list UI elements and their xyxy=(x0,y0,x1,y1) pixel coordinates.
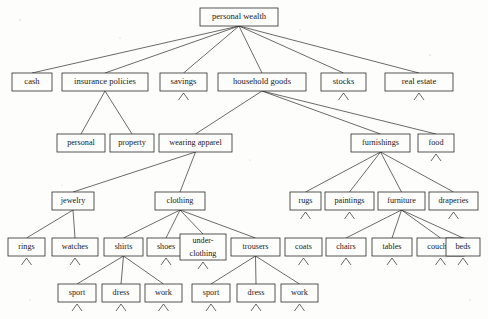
tree-node-household-goods[interactable]: household goods xyxy=(218,73,306,91)
leaf-expand-stub xyxy=(72,304,82,311)
tree-node-beds[interactable]: beds xyxy=(446,238,480,256)
node-label: tables xyxy=(382,242,401,251)
tree-diagram-canvas: personal wealthcashinsurance policiessav… xyxy=(0,0,488,319)
paper-noise-layer xyxy=(19,19,470,300)
leaf-expand-stub xyxy=(299,258,309,265)
tree-node-trousers[interactable]: trousers xyxy=(231,238,280,256)
tree-edge xyxy=(239,26,262,73)
leaf-expand-stub xyxy=(436,258,446,265)
node-label: work xyxy=(155,288,173,297)
leaf-expand-stub xyxy=(431,154,441,161)
tree-node-chairs[interactable]: chairs xyxy=(326,238,366,256)
tree-edge xyxy=(166,210,180,238)
tree-edge xyxy=(180,210,203,234)
tree-edge xyxy=(73,210,75,238)
tree-node-food[interactable]: food xyxy=(418,134,454,152)
tree-node-shirts-dress[interactable]: dress xyxy=(102,284,140,302)
tree-node-under-clothing[interactable]: under-clothing xyxy=(180,234,226,260)
tree-edge xyxy=(77,256,124,284)
node-label: dress xyxy=(248,288,265,297)
leaf-expand-stub xyxy=(159,304,169,311)
node-label: watches xyxy=(62,242,88,251)
node-label: trousers xyxy=(243,242,269,251)
tree-edge xyxy=(350,152,381,192)
leaf-expand-stub xyxy=(458,258,468,265)
leaf-expand-stub xyxy=(198,262,208,269)
node-label-line: clothing xyxy=(190,249,217,258)
tree-node-furnishings[interactable]: furnishings xyxy=(351,134,410,152)
leaf-expand-stub xyxy=(341,258,351,265)
tree-node-tables[interactable]: tables xyxy=(372,238,412,256)
tree-edge xyxy=(402,210,441,238)
tree-edge xyxy=(73,152,196,192)
tree-node-property[interactable]: property xyxy=(110,134,154,152)
tree-node-wearing-apparel[interactable]: wearing apparel xyxy=(159,134,232,152)
tree-node-trousers-work[interactable]: work xyxy=(281,284,318,302)
node-label: sport xyxy=(203,288,220,297)
tree-node-rugs[interactable]: rugs xyxy=(290,192,321,210)
tree-edge xyxy=(180,152,196,192)
leaf-expand-stub xyxy=(339,93,349,100)
node-label: personal xyxy=(67,138,95,147)
paper-speck xyxy=(29,299,30,300)
tree-node-furniture[interactable]: furniture xyxy=(378,192,425,210)
tree-diagram-svg: personal wealthcashinsurance policiessav… xyxy=(0,0,488,319)
node-label: work xyxy=(291,288,309,297)
tree-node-shirts-sport[interactable]: sport xyxy=(58,284,96,302)
node-label: property xyxy=(118,138,147,147)
tree-node-real-estate[interactable]: real estate xyxy=(385,73,453,91)
tree-node-shirts-work[interactable]: work xyxy=(145,284,182,302)
node-label: real estate xyxy=(402,76,437,86)
tree-node-stocks[interactable]: stocks xyxy=(321,73,366,91)
node-label: rings xyxy=(18,242,34,251)
leaf-expand-stub xyxy=(22,258,32,265)
node-label: wearing apparel xyxy=(169,138,222,147)
tree-node-paintings[interactable]: paintings xyxy=(325,192,374,210)
paper-speck xyxy=(19,19,20,20)
tree-node-personal[interactable]: personal xyxy=(57,134,105,152)
node-layer: personal wealthcashinsurance policiessav… xyxy=(8,8,480,302)
node-label: clothing xyxy=(167,196,194,205)
tree-edge xyxy=(27,210,74,238)
node-label: furnishings xyxy=(362,138,399,147)
tree-node-trousers-sport[interactable]: sport xyxy=(192,284,230,302)
tree-node-draperies[interactable]: draperies xyxy=(429,192,478,210)
tree-edge xyxy=(121,256,124,284)
node-label: rugs xyxy=(298,196,312,205)
tree-node-insurance-policies[interactable]: insurance policies xyxy=(62,73,148,91)
tree-node-savings[interactable]: savings xyxy=(160,73,207,91)
leaf-expand-stub xyxy=(387,258,397,265)
tree-edge xyxy=(262,91,381,134)
tree-node-watches[interactable]: watches xyxy=(52,238,98,256)
tree-edge xyxy=(196,91,263,134)
node-label-line: under- xyxy=(192,236,213,245)
node-label: household goods xyxy=(233,76,292,86)
tree-node-jewelry[interactable]: jewelry xyxy=(52,192,94,210)
leaf-expand-stub xyxy=(251,304,261,311)
tree-node-coats[interactable]: coats xyxy=(285,238,322,256)
leaf-expand-stub xyxy=(301,212,311,219)
tree-node-rings[interactable]: rings xyxy=(8,238,45,256)
tree-edge xyxy=(256,256,300,284)
tree-node-shirts[interactable]: shirts xyxy=(104,238,143,256)
leaf-expand-stub xyxy=(179,93,189,100)
leaf-expand-stub xyxy=(449,212,459,219)
leaf-expand-stub xyxy=(295,304,305,311)
node-label: shirts xyxy=(115,242,133,251)
tree-node-trousers-dress[interactable]: dress xyxy=(237,284,275,302)
tree-node-shoes[interactable]: shoes xyxy=(147,238,185,256)
tree-node-cash[interactable]: cash xyxy=(12,73,52,91)
node-label: cash xyxy=(24,76,40,86)
node-label: furniture xyxy=(387,196,416,205)
tree-edge xyxy=(81,91,105,134)
node-label: personal wealth xyxy=(212,11,267,21)
tree-node-clothing[interactable]: clothing xyxy=(155,192,205,210)
tree-edge xyxy=(105,26,239,73)
tree-edge xyxy=(124,256,164,284)
tree-edge xyxy=(262,91,436,134)
tree-edge xyxy=(239,26,419,73)
tree-node-personal-wealth[interactable]: personal wealth xyxy=(200,8,278,26)
node-label: dress xyxy=(113,288,130,297)
node-label: shoes xyxy=(157,242,175,251)
node-label: food xyxy=(428,138,443,147)
